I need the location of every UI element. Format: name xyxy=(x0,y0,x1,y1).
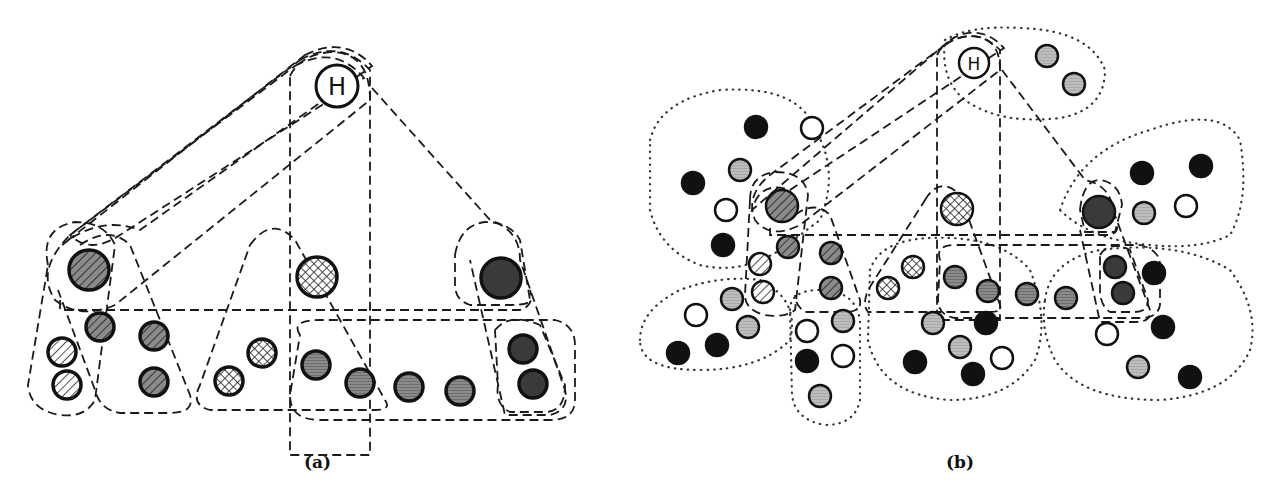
node-black xyxy=(667,342,689,364)
node-black xyxy=(1131,162,1153,184)
node-dark xyxy=(1104,256,1126,278)
node-gray xyxy=(1016,283,1038,305)
node-cross xyxy=(297,257,337,297)
node-white xyxy=(1096,323,1118,345)
panel-a-hyperedges xyxy=(28,47,575,455)
node-black xyxy=(796,350,818,372)
node-black xyxy=(904,351,926,373)
node-lightgray xyxy=(832,310,854,332)
node-gray xyxy=(1055,287,1077,309)
node-black xyxy=(1152,316,1174,338)
node-white xyxy=(1175,195,1197,217)
node-black xyxy=(975,312,997,334)
node-lightgray xyxy=(1036,45,1058,67)
node-lightgray xyxy=(737,316,759,338)
node-white xyxy=(796,320,818,342)
node-diag-dark xyxy=(140,322,168,350)
node-black xyxy=(745,116,767,138)
panel-b-hub-node: H xyxy=(959,48,989,78)
node-lightgray xyxy=(1127,356,1149,378)
node-cross xyxy=(248,339,276,367)
node-cross xyxy=(941,193,973,225)
node-gray xyxy=(977,280,999,302)
node-dark xyxy=(481,258,521,298)
node-black xyxy=(1143,262,1165,284)
node-gray xyxy=(944,266,966,288)
node-white xyxy=(832,345,854,367)
node-lightgray xyxy=(1063,73,1085,95)
node-diag-dark xyxy=(140,368,168,396)
node-diag-light xyxy=(53,371,81,399)
node-black xyxy=(1179,366,1201,388)
hub-label: H xyxy=(328,73,346,101)
node-cross xyxy=(902,256,924,278)
node-dark xyxy=(1083,196,1115,228)
node-black xyxy=(682,172,704,194)
node-white xyxy=(685,304,707,326)
node-diag-dark xyxy=(820,242,842,264)
node-black xyxy=(712,234,734,256)
hypergraph-figure: H H xyxy=(0,0,1278,500)
caption-a: (a) xyxy=(304,452,331,472)
node-diag-dark xyxy=(777,236,799,258)
node-diag-light xyxy=(752,281,774,303)
node-lightgray xyxy=(721,288,743,310)
hub-label: H xyxy=(968,54,981,74)
node-white xyxy=(991,347,1013,369)
node-lightgray xyxy=(809,385,831,407)
node-black xyxy=(1190,155,1212,177)
node-lightgray xyxy=(922,312,944,334)
node-gray xyxy=(302,351,330,379)
node-white xyxy=(715,199,737,221)
node-gray xyxy=(446,377,474,405)
panel-b-nodes xyxy=(667,45,1212,407)
node-dark xyxy=(1112,282,1134,304)
node-gray xyxy=(395,373,423,401)
node-diag-dark xyxy=(86,313,114,341)
node-cross xyxy=(215,367,243,395)
panel-a-hub-node: H xyxy=(316,65,358,107)
node-gray xyxy=(346,369,374,397)
node-black xyxy=(706,334,728,356)
node-dark xyxy=(519,370,547,398)
caption-b: (b) xyxy=(946,452,974,472)
node-lightgray xyxy=(729,159,751,181)
node-lightgray xyxy=(1133,202,1155,224)
node-white xyxy=(801,117,823,139)
node-dark xyxy=(509,335,537,363)
node-diag-light xyxy=(48,338,76,366)
node-diag-dark xyxy=(766,190,798,222)
node-lightgray xyxy=(949,336,971,358)
node-diag-dark xyxy=(69,250,109,290)
node-cross xyxy=(877,277,899,299)
node-black xyxy=(962,363,984,385)
node-diag-light xyxy=(749,253,771,275)
node-diag-dark xyxy=(820,277,842,299)
